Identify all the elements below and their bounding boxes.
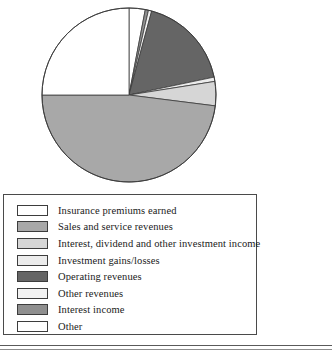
- legend-label: Other revenues: [58, 288, 123, 299]
- legend-label: Other: [58, 321, 82, 332]
- legend-item: Other: [17, 318, 255, 335]
- legend-label: Operating revenues: [58, 271, 142, 282]
- legend-item: Interest, dividend and other investment …: [17, 235, 255, 252]
- legend-list: Insurance premiums earnedSales and servi…: [17, 202, 255, 335]
- legend-item: Insurance premiums earned: [17, 202, 255, 219]
- legend-swatch: [17, 271, 48, 282]
- legend-label: Insurance premiums earned: [58, 205, 177, 216]
- legend-label: Sales and service revenues: [58, 221, 173, 232]
- footer-divider: [0, 345, 332, 346]
- legend-swatch: [17, 288, 48, 299]
- footer-divider-secondary: [0, 349, 332, 350]
- legend-swatch: [17, 221, 48, 232]
- legend-swatch: [17, 255, 48, 266]
- legend-swatch: [17, 321, 48, 332]
- legend-label: Interest income: [58, 304, 125, 315]
- pie-plot-area: [0, 0, 332, 190]
- legend-swatch: [17, 238, 48, 249]
- pie-chart-figure: Insurance premiums earnedSales and servi…: [0, 0, 332, 353]
- pie-slices-group: [42, 8, 216, 182]
- legend-item: Operating revenues: [17, 268, 255, 285]
- pie-slice: [42, 8, 129, 95]
- legend-item: Investment gains/losses: [17, 252, 255, 269]
- legend-label: Interest, dividend and other investment …: [58, 238, 260, 249]
- legend-item: Sales and service revenues: [17, 219, 255, 236]
- legend-swatch: [17, 304, 48, 315]
- legend-box: Insurance premiums earnedSales and servi…: [3, 194, 257, 335]
- legend-item: Other revenues: [17, 285, 255, 302]
- legend-swatch: [17, 205, 48, 216]
- pie-svg: [0, 0, 332, 190]
- pie-slice: [42, 95, 215, 182]
- legend-label: Investment gains/losses: [58, 255, 160, 266]
- legend-item: Interest income: [17, 302, 255, 319]
